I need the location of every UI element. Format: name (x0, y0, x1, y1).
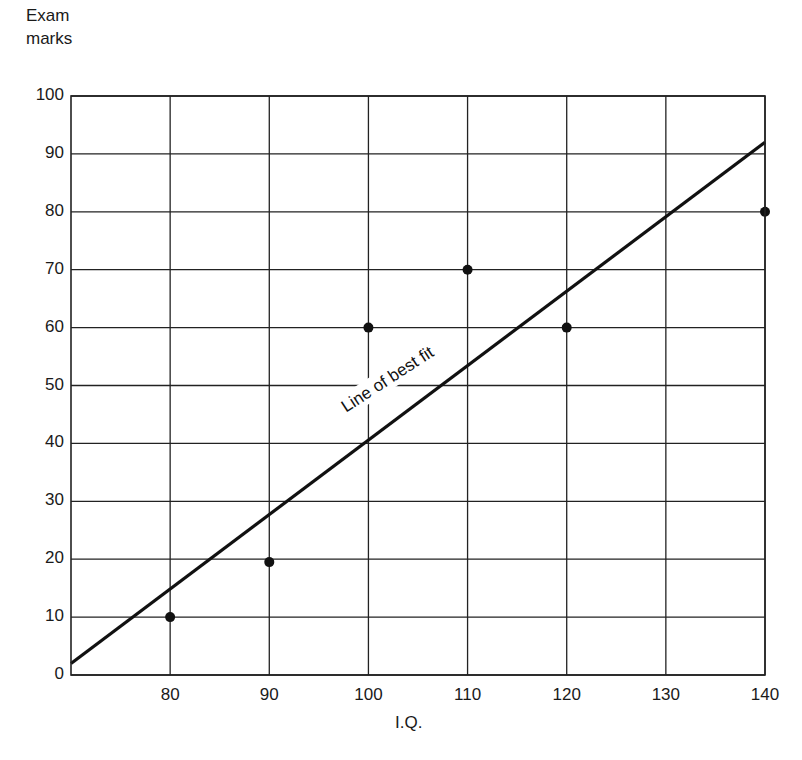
y-tick-label: 100 (24, 85, 64, 105)
data-point (165, 612, 175, 622)
grid-lines (71, 96, 765, 675)
y-tick-label: 10 (24, 606, 64, 626)
x-axis-title: I.Q. (395, 713, 422, 733)
x-tick-label: 110 (443, 685, 493, 705)
x-tick-label: 120 (542, 685, 592, 705)
y-tick-label: 30 (24, 490, 64, 510)
x-tick-label: 140 (740, 685, 790, 705)
y-tick-label: 80 (24, 201, 64, 221)
y-axis-title: Exam marks (26, 4, 72, 50)
y-tick-label: 90 (24, 143, 64, 163)
y-axis-title-line2: marks (26, 27, 72, 50)
x-tick-label: 100 (343, 685, 393, 705)
data-point (463, 265, 473, 275)
y-tick-label: 20 (24, 548, 64, 568)
x-tick-label: 80 (145, 685, 195, 705)
annotation-label: Line of best fit (338, 342, 437, 416)
y-tick-label: 0 (24, 664, 64, 684)
data-point (562, 323, 572, 333)
best-fit-annotation: Line of best fit (333, 330, 454, 419)
data-point (264, 557, 274, 567)
y-tick-label: 60 (24, 317, 64, 337)
y-tick-label: 40 (24, 432, 64, 452)
best-fit-line (71, 142, 765, 663)
data-point (363, 323, 373, 333)
x-tick-label: 130 (641, 685, 691, 705)
y-tick-label: 70 (24, 259, 64, 279)
scatter-chart: Line of best fit (0, 0, 802, 760)
y-tick-label: 50 (24, 375, 64, 395)
x-tick-label: 90 (244, 685, 294, 705)
y-axis-title-line1: Exam (26, 4, 72, 27)
